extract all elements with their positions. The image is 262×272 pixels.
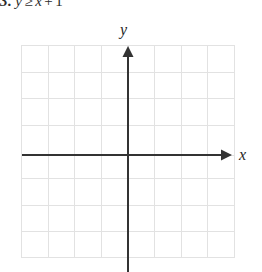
y-axis-arrowhead (123, 46, 134, 57)
x-axis-label: x (239, 147, 246, 163)
y-axis (123, 46, 134, 272)
x-axis-arrowhead (221, 150, 232, 161)
coordinate-graph: y x (0, 0, 262, 272)
graph-canvas (0, 0, 262, 272)
y-axis-label: y (120, 22, 127, 38)
